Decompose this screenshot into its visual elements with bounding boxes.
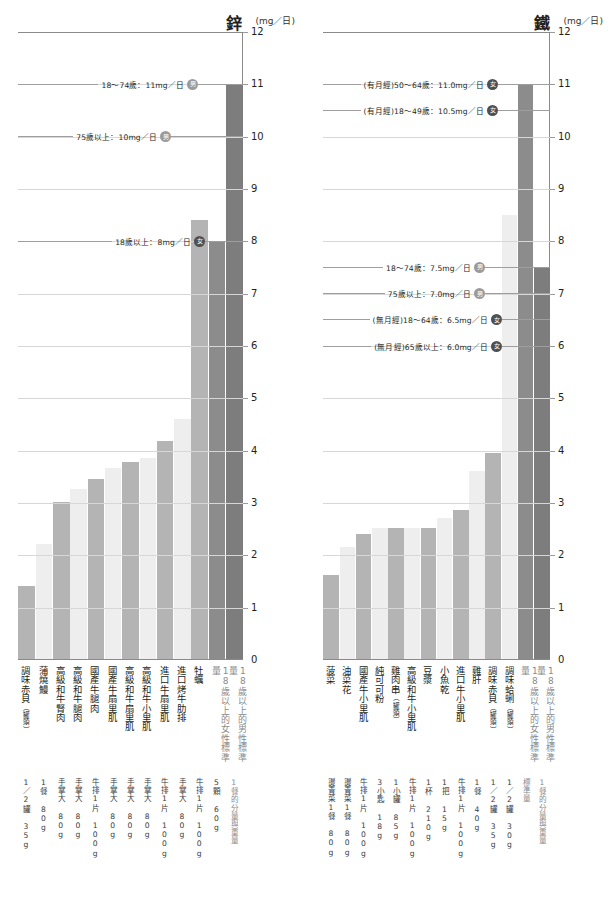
- y-tick-label-3: 3: [558, 498, 564, 508]
- x-axis-label-main: 調味蛤蜊: [504, 666, 515, 704]
- gridline-6: [18, 346, 243, 347]
- x-axis-label: 菠菜: [325, 666, 335, 762]
- gender-badge-female-icon: 女: [487, 105, 498, 116]
- y-tick-label-6: 6: [558, 341, 564, 351]
- x-axis-label: 高級和牛小里肌: [142, 666, 152, 762]
- x-axis-label: 國產牛腿肉: [90, 666, 100, 762]
- bar-18歲以上的男性標準量: [226, 84, 243, 659]
- y-tick-label-0: 0: [251, 655, 257, 665]
- x-axis-label-main: 18歲以上的男性標準量: [228, 666, 247, 762]
- x-axis-label: 進口烤牛肋排: [176, 666, 186, 762]
- y-tick-label-10: 10: [558, 132, 571, 142]
- callout-label: (有月經)18～49歲：10.5mg／日: [361, 105, 487, 116]
- y-tick-label-7: 7: [558, 289, 564, 299]
- y-tick-label-2: 2: [251, 550, 257, 560]
- gridline-8: [323, 241, 550, 242]
- serving-size-label: 牛排1片 100g: [359, 778, 367, 888]
- x-axis-label-main: 雞肉串: [390, 666, 401, 694]
- serving-size-label: 牛排1片 100g: [160, 778, 168, 888]
- bar-小魚乾: [437, 518, 453, 659]
- bar-蒲燒鰻: [36, 544, 53, 659]
- x-axis-label-paren: （罐頭）: [391, 694, 399, 724]
- x-axis-label: 調味赤貝（罐頭）: [20, 666, 30, 762]
- serving-size-label: 3小匙 18g: [375, 778, 383, 888]
- x-axis-label: 國產牛小里肌: [358, 666, 368, 762]
- y-tick-mark-5: [550, 398, 555, 399]
- y-tick-mark-9: [550, 189, 555, 190]
- bar-純可可粉: [372, 528, 388, 659]
- y-tick-mark-7: [243, 294, 248, 295]
- bar-菠菜: [323, 575, 339, 659]
- x-axis-labels-iron: 菠菜油菜花國產牛小里肌純可可粉雞肉串（罐頭）高級和牛小里肌豆漿小魚乾進口牛小里肌…: [323, 666, 550, 762]
- serving-size-label: 1餐的分量與重量: [229, 778, 237, 888]
- x-axis-label: 國產牛扇里肌: [107, 666, 117, 762]
- gridline-10: [323, 137, 550, 138]
- bar-國產牛扇里肌: [105, 468, 122, 659]
- bar-高級和牛腿肉: [70, 489, 87, 659]
- gridline-4: [18, 451, 243, 452]
- y-tick-label-11: 11: [558, 79, 571, 89]
- y-tick-mark-8: [550, 241, 555, 242]
- serving-size-label: 1餐 80g: [39, 778, 47, 888]
- axis-bottom: [18, 659, 243, 660]
- serving-size-label: 1餐 40g: [472, 778, 480, 888]
- callout-leader-line-right: [205, 241, 243, 242]
- x-axis-label: 高級和牛腎肉: [55, 666, 65, 762]
- serving-labels-zinc: 1／2罐 35g1餐 80g手掌大 80g手掌大 80g牛排1片 100g手掌大…: [18, 778, 243, 890]
- bar-豆漿: [421, 528, 437, 659]
- y-tick-mark-12: [550, 32, 555, 33]
- serving-size-label: 1小罐 85g: [391, 778, 399, 888]
- zinc-chart-panel: 鋅 (mg／日) 18～74歲：11mg／日男75歲以上：10mg／日男18歲以…: [0, 0, 307, 901]
- bar-牡蠣: [191, 220, 208, 659]
- bar-雞肉串(罐頭): [388, 528, 404, 659]
- y-tick-mark-12: [243, 32, 248, 33]
- serving-size-label: 牛排1片 100g: [456, 778, 464, 888]
- bar-進口烤牛肋排: [174, 419, 191, 659]
- gridline-1: [323, 608, 550, 609]
- bar-調味蛤蜊(罐頭): [502, 215, 518, 659]
- y-tick-mark-6: [243, 346, 248, 347]
- bar-高級和牛扇里肌: [122, 462, 139, 660]
- annotation-callout: 75歲以上：7.0mg／日男: [323, 287, 550, 301]
- serving-size-label: 5顆 60g: [212, 778, 220, 888]
- callout-leader-line-right: [485, 267, 550, 268]
- y-tick-mark-10: [243, 137, 248, 138]
- bar-進口牛小里肌: [453, 510, 469, 659]
- x-axis-label: 牡蠣: [193, 666, 203, 762]
- y-tick-label-12: 12: [558, 27, 571, 37]
- serving-size-label: 1／2罐 35g: [488, 778, 496, 888]
- serving-size-label: 手掌大 80g: [108, 778, 116, 888]
- gender-badge-male-icon: 男: [474, 288, 485, 299]
- gridline-3: [323, 503, 550, 504]
- x-axis-label-main: 進口烤牛肋排: [176, 666, 187, 722]
- gridline-2: [323, 555, 550, 556]
- gridline-9: [18, 189, 243, 190]
- x-axis-label-main: 牡蠣: [193, 666, 204, 685]
- bar-雞肝: [469, 471, 485, 659]
- page-title-zinc: 鋅: [226, 10, 243, 34]
- x-axis-label: 高級和牛小里肌: [406, 666, 416, 762]
- y-tick-label-4: 4: [558, 446, 564, 456]
- gridline-9: [323, 189, 550, 190]
- y-tick-mark-11: [243, 84, 248, 85]
- callout-leader-line-right: [198, 84, 243, 85]
- x-axis-label-paren: （罐頭）: [505, 704, 513, 734]
- callout-label: (有月經)50～64歲：11.0mg／日: [361, 79, 487, 90]
- annotation-callout: (有月經)18～49歲：10.5mg／日女: [323, 104, 550, 118]
- callout-leader-line-left: [323, 267, 383, 268]
- serving-size-label: 標準量: [521, 778, 529, 888]
- x-axis-label: 調味赤貝（罐頭）: [487, 666, 497, 762]
- y-tick-mark-1: [243, 608, 248, 609]
- y-tick-mark-3: [243, 503, 248, 504]
- callout-leader-line-right: [502, 319, 550, 320]
- callout-label: 18歲以上：8mg／日: [112, 236, 194, 247]
- y-tick-label-1: 1: [558, 603, 564, 613]
- serving-size-label: 1杯 210g: [424, 778, 432, 888]
- annotation-callout: 18～74歲：11mg／日男: [18, 77, 243, 91]
- serving-labels-iron: 燙青菜1餐 80g燙青菜1餐 80g牛排1片 100g3小匙 18g1小罐 85…: [323, 778, 550, 890]
- y-tick-label-5: 5: [251, 393, 257, 403]
- callout-leader-line-left: [323, 319, 370, 320]
- serving-size-label: 手掌大 80g: [56, 778, 64, 888]
- y-tick-mark-2: [550, 555, 555, 556]
- x-axis-label-main: 國產牛扇里肌: [107, 666, 118, 722]
